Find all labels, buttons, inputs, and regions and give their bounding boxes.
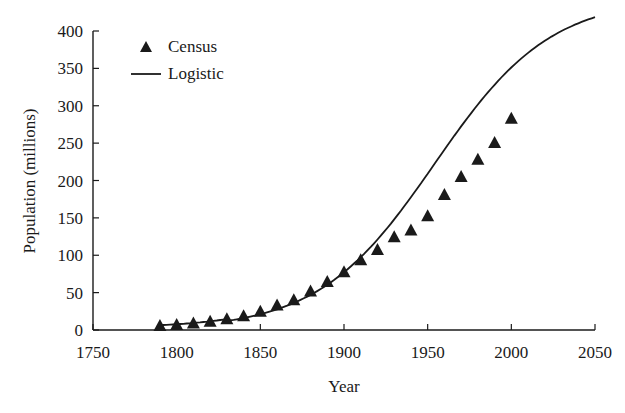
census-point-triangle-icon [438,188,451,200]
population-chart: 050100150200250300350400 175018001850190… [0,0,625,413]
y-tick-label: 200 [58,172,84,191]
census-point-triangle-icon [271,299,284,311]
x-tick-label: 1850 [243,343,277,362]
census-point-triangle-icon [455,170,468,182]
census-point-triangle-icon [254,305,267,317]
y-tick-label: 300 [58,97,84,116]
y-tick-label: 50 [66,284,83,303]
census-point-triangle-icon [287,293,300,305]
legend-logistic-label: Logistic [168,64,224,83]
y-tick-label: 350 [58,59,84,78]
census-point-triangle-icon [237,309,250,321]
census-point-triangle-icon [220,312,233,324]
census-point-triangle-icon [354,253,367,265]
census-points [153,112,517,331]
y-axis-title: Population (millions) [20,109,39,254]
axes: 050100150200250300350400 175018001850190… [58,22,613,362]
census-point-triangle-icon [488,136,501,148]
logistic-curve [160,17,595,325]
x-tick-label: 1900 [327,343,361,362]
x-tick-label: 2050 [578,343,612,362]
census-point-triangle-icon [471,153,484,165]
y-tick-label: 400 [58,22,84,41]
x-tick-label: 1800 [160,343,194,362]
y-tick-label: 250 [58,134,84,153]
y-tick-label: 100 [58,246,84,265]
census-point-triangle-icon [421,209,434,221]
x-tick-label: 1950 [411,343,445,362]
x-tick-label: 2000 [494,343,528,362]
census-point-triangle-icon [404,224,417,236]
legend-census-triangle-icon [140,41,152,52]
x-axis-title: Year [328,377,360,396]
legend: Census Logistic [131,37,224,83]
x-tick-label: 1750 [76,343,110,362]
census-point-triangle-icon [505,112,518,124]
y-tick-label: 0 [75,321,84,340]
census-point-triangle-icon [304,284,317,296]
y-tick-label: 150 [58,209,84,228]
census-point-triangle-icon [338,265,351,277]
census-point-triangle-icon [388,230,401,242]
legend-census-label: Census [168,37,217,56]
